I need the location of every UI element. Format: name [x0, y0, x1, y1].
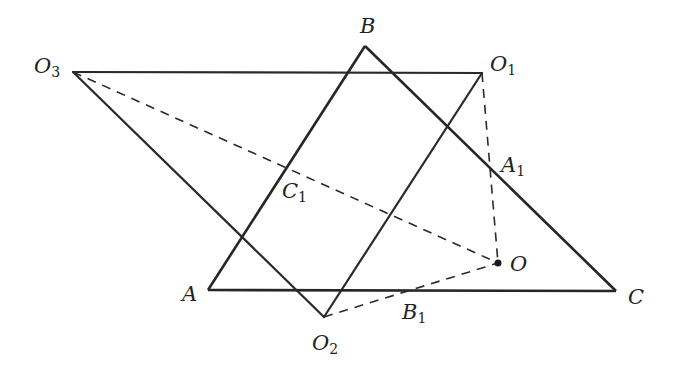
- label-letter: B: [402, 300, 417, 324]
- label-a1: A1: [501, 155, 525, 178]
- label-c1: C1: [282, 181, 307, 204]
- label-subscript: 3: [51, 64, 60, 80]
- label-c: C: [628, 287, 644, 308]
- label-o3: O3: [34, 56, 60, 79]
- label-letter: A: [182, 282, 197, 306]
- label-subscript: 1: [417, 310, 426, 326]
- segment-o3-o1: [73, 72, 482, 73]
- geometry-figure: [0, 0, 681, 369]
- label-letter: O: [312, 331, 329, 355]
- label-letter: A: [501, 153, 516, 177]
- label-a: A: [182, 284, 197, 305]
- point-o-marker: [495, 260, 502, 267]
- label-subscript: 2: [329, 341, 338, 357]
- segment-o1-o2: [324, 73, 482, 317]
- label-letter: C: [628, 285, 644, 309]
- label-subscript: 1: [516, 163, 525, 179]
- label-letter: C: [282, 179, 298, 203]
- segment-c-a: [208, 290, 616, 291]
- label-b: B: [360, 16, 375, 37]
- label-o2: O2: [312, 333, 338, 356]
- label-letter: O: [490, 52, 507, 76]
- label-subscript: 1: [507, 62, 516, 78]
- segment-b-c: [365, 46, 616, 291]
- segment-o3-o: [73, 72, 498, 263]
- label-b1: B1: [402, 302, 426, 325]
- triangle-abc: [208, 46, 616, 291]
- point-o-dot: [495, 260, 502, 267]
- label-letter: O: [510, 252, 527, 276]
- segment-a-b: [208, 46, 365, 290]
- label-o1: O1: [490, 54, 516, 77]
- triangle-o1o2o3: [73, 72, 482, 317]
- label-letter: B: [360, 14, 375, 38]
- label-subscript: 1: [298, 189, 307, 205]
- label-letter: O: [34, 54, 51, 78]
- label-o: O: [510, 254, 527, 275]
